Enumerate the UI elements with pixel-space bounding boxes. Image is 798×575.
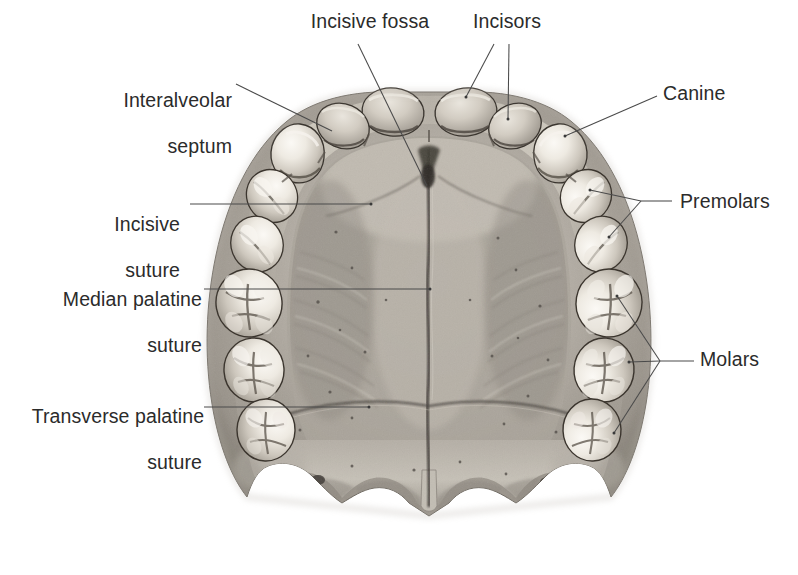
leader-incisors-1 (466, 44, 494, 97)
label-median-palatine-suture-line1: Median palatine (63, 288, 202, 310)
label-transverse-palatine-suture: Transverse palatine suture (10, 382, 202, 497)
label-median-palatine-suture-line2: suture (147, 334, 202, 356)
label-canine: Canine (663, 82, 773, 105)
label-incisive-fossa: Incisive fossa (290, 10, 450, 33)
label-incisors: Incisors (452, 10, 562, 33)
label-interalveolar-septum: Interalveolar septum (70, 66, 232, 181)
label-median-palatine-suture: Median palatine suture (34, 265, 202, 380)
label-transverse-palatine-suture-line1: Transverse palatine (32, 405, 204, 427)
label-interalveolar-septum-line2: septum (167, 135, 232, 157)
label-incisive-suture-line1: Incisive (114, 213, 180, 235)
label-interalveolar-septum-line1: Interalveolar (123, 89, 232, 111)
leader-canine (565, 96, 657, 136)
hard-palate-figure: Incisive fossa Incisors Interalveolar se… (0, 0, 798, 575)
label-transverse-palatine-suture-line2: suture (147, 451, 202, 473)
label-molars: Molars (700, 348, 792, 371)
label-premolars: Premolars (680, 190, 798, 213)
